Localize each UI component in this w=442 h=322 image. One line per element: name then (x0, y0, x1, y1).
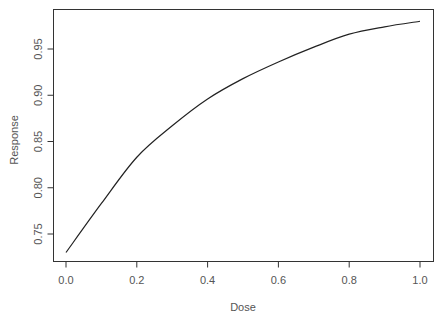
y-axis: 0.750.800.850.900.95 (32, 38, 54, 244)
x-tick-label: 0.2 (129, 274, 144, 286)
x-axis-title: Dose (230, 301, 256, 313)
y-tick-label: 0.80 (32, 177, 44, 198)
line-chart: 0.00.20.40.60.81.0 0.750.800.850.900.95 … (0, 0, 442, 322)
y-tick-label: 0.85 (32, 131, 44, 152)
x-tick-label: 0.8 (342, 274, 357, 286)
x-tick-label: 1.0 (412, 274, 427, 286)
x-tick-label: 0.0 (58, 274, 73, 286)
y-tick-label: 0.95 (32, 38, 44, 59)
x-tick-label: 0.4 (200, 274, 215, 286)
response-curve (66, 21, 420, 252)
plot-frame (54, 10, 434, 262)
x-tick-label: 0.6 (271, 274, 286, 286)
y-axis-title: Response (8, 115, 20, 165)
y-tick-label: 0.90 (32, 85, 44, 106)
y-tick-label: 0.75 (32, 223, 44, 244)
x-axis: 0.00.20.40.60.81.0 (58, 262, 427, 286)
